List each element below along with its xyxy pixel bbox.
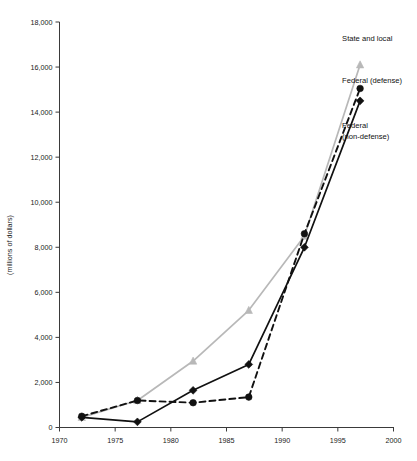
series-line: [82, 65, 360, 418]
x-tick-label: 1980: [163, 436, 179, 445]
series-line: [82, 88, 360, 416]
x-tick-label: 1990: [274, 436, 290, 445]
data-point: [356, 97, 364, 105]
x-tick-label: 1995: [330, 436, 346, 445]
series-label-3-line2: (non-defense): [342, 132, 390, 141]
series-label-1: State and local: [342, 34, 393, 43]
chart-container: 02,0004,0006,0008,00010,00012,00014,0001…: [0, 0, 417, 461]
series-3: [78, 85, 363, 419]
x-tick-label: 1970: [52, 436, 68, 445]
series-1: [78, 61, 364, 421]
series-label-2: Federal (defense): [342, 76, 402, 85]
legend-labels: State and localFederal (defense)Federal(…: [342, 34, 402, 141]
series-layer: [78, 61, 364, 426]
data-point: [190, 399, 197, 406]
y-tick-label: 4,000: [35, 333, 53, 342]
data-point: [245, 361, 253, 369]
y-tick-label: 18,000: [31, 18, 53, 27]
y-tick-label: 0: [49, 423, 53, 432]
y-axis-ticks: 02,0004,0006,0008,00010,00012,00014,0001…: [31, 18, 60, 433]
y-tick-label: 14,000: [31, 108, 53, 117]
x-tick-label: 1985: [219, 436, 235, 445]
series-label-3-line1: Federal: [342, 121, 368, 130]
series-2: [78, 97, 364, 426]
x-tick-label: 2000: [386, 436, 402, 445]
y-tick-label: 12,000: [31, 153, 53, 162]
y-tick-label: 10,000: [31, 198, 53, 207]
data-point: [245, 394, 252, 401]
y-axis-label: (millions of dollars): [5, 215, 14, 275]
data-point: [301, 230, 308, 237]
data-point: [357, 85, 364, 92]
data-point: [356, 61, 363, 68]
y-tick-label: 8,000: [35, 243, 53, 252]
y-tick-label: 6,000: [35, 288, 53, 297]
line-chart-plot: 02,0004,0006,0008,00010,00012,00014,0001…: [0, 0, 417, 461]
data-point: [78, 413, 85, 420]
y-tick-label: 2,000: [35, 378, 53, 387]
series-line: [82, 101, 360, 422]
y-tick-label: 16,000: [31, 63, 53, 72]
data-point: [189, 386, 197, 394]
data-point: [134, 418, 142, 426]
x-axis-ticks: 1970197519801985199019952000: [52, 428, 402, 445]
data-point: [134, 397, 141, 404]
x-tick-label: 1975: [107, 436, 123, 445]
